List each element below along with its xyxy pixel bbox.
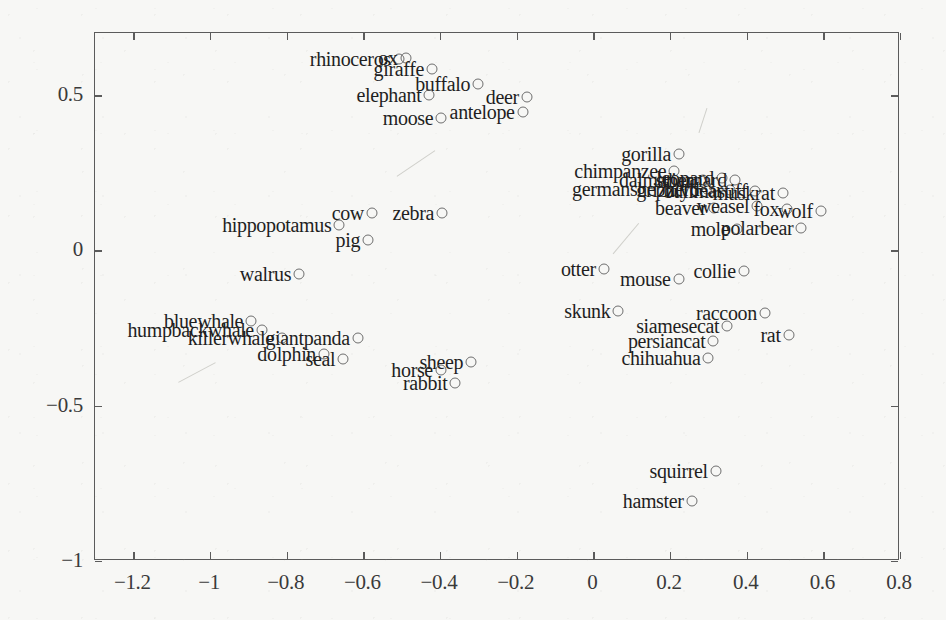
x-axis-tick <box>363 552 364 559</box>
data-point-marker <box>437 207 448 218</box>
data-point-marker <box>815 205 826 216</box>
data-point-marker <box>710 465 721 476</box>
data-point-marker <box>466 356 477 367</box>
data-point-label: walrus <box>240 264 291 284</box>
x-axis-tick <box>593 552 594 559</box>
x-axis-tick-top <box>287 33 288 40</box>
data-point-marker <box>598 263 609 274</box>
data-point-label: weasel <box>697 196 749 216</box>
y-axis-tick-label: 0 <box>73 237 83 262</box>
scatter-plot-figure: −1.2−1−0.8−0.6−0.4−0.200.20.40.60.80.50−… <box>0 0 946 620</box>
x-axis-tick-top <box>517 33 518 40</box>
x-axis-tick-top <box>133 33 134 40</box>
data-point-marker <box>759 308 770 319</box>
data-point-label: moose <box>383 108 433 128</box>
data-point-marker <box>424 90 435 101</box>
x-axis-tick-top <box>210 33 211 40</box>
data-point-label: otter <box>561 259 596 279</box>
y-axis-tick-label: −0.5 <box>46 392 83 417</box>
y-axis-tick <box>95 250 102 251</box>
x-axis-tick <box>900 552 901 559</box>
data-point-label: chihuahua <box>621 348 700 368</box>
data-point-marker <box>338 353 349 364</box>
data-point-marker <box>363 235 374 246</box>
y-axis-tick-right <box>891 406 898 407</box>
x-axis-tick <box>440 552 441 559</box>
data-point-marker <box>294 268 305 279</box>
x-axis-tick-top <box>363 33 364 40</box>
x-axis-tick-label: −0.8 <box>267 570 304 595</box>
x-axis-tick-label: −0.2 <box>497 570 534 595</box>
data-point-label: elephant <box>356 85 421 105</box>
x-axis-tick <box>210 552 211 559</box>
data-point-label: squirrel <box>649 461 707 481</box>
data-point-label: buffalo <box>415 74 470 94</box>
x-axis-tick-top <box>823 33 824 40</box>
data-point-marker <box>613 306 624 317</box>
x-axis-tick-top <box>747 33 748 40</box>
data-point-marker <box>796 223 807 234</box>
x-axis-tick <box>670 552 671 559</box>
data-point-label: seal <box>305 349 335 369</box>
data-point-marker <box>436 112 447 123</box>
x-axis-tick-label: 0.4 <box>733 570 758 595</box>
data-point-label: zebra <box>393 203 435 223</box>
x-axis-tick-label: 0.2 <box>656 570 681 595</box>
data-point-marker <box>783 330 794 341</box>
data-point-marker <box>708 336 719 347</box>
data-point-label: pig <box>336 230 361 250</box>
data-point-marker <box>450 377 461 388</box>
x-axis-tick-label: −0.4 <box>421 570 458 595</box>
data-point-label: collie <box>693 261 735 281</box>
x-axis-tick-top <box>670 33 671 40</box>
x-axis-tick-label: −1.2 <box>114 570 151 595</box>
data-point-label: hamster <box>623 491 684 511</box>
x-axis-tick <box>133 552 134 559</box>
data-point-marker <box>722 321 733 332</box>
data-point-marker <box>352 332 363 343</box>
data-point-marker <box>777 187 788 198</box>
y-axis-tick <box>95 95 102 96</box>
data-point-label: antelope <box>450 102 515 122</box>
data-point-marker <box>517 106 528 117</box>
x-axis-tick-label: 0.6 <box>810 570 835 595</box>
data-point-marker <box>521 91 532 102</box>
y-axis-tick-right <box>891 561 898 562</box>
data-point-marker <box>473 78 484 89</box>
data-point-label: rat <box>761 325 781 345</box>
x-axis-tick-top <box>440 33 441 40</box>
data-point-label: skunk <box>564 301 610 321</box>
y-axis-tick-right <box>891 95 898 96</box>
x-axis-tick <box>747 552 748 559</box>
data-point-marker <box>673 149 684 160</box>
x-axis-tick <box>287 552 288 559</box>
y-axis-tick <box>95 561 102 562</box>
x-axis-tick-label: 0 <box>587 570 597 595</box>
x-axis-tick-label: 0.8 <box>886 570 911 595</box>
x-axis-tick-label: −0.6 <box>344 570 381 595</box>
x-axis-tick-label: −1 <box>198 570 220 595</box>
data-point-label: polarbear <box>721 218 793 238</box>
data-point-label: mouse <box>620 269 670 289</box>
x-axis-tick-top <box>593 33 594 40</box>
data-point-label: hippopotamus <box>222 215 331 235</box>
data-point-marker <box>366 208 377 219</box>
y-axis-tick-right <box>891 250 898 251</box>
x-axis-tick <box>517 552 518 559</box>
data-point-label: rabbit <box>403 373 448 393</box>
data-point-marker <box>673 273 684 284</box>
data-point-label: fox <box>753 199 779 219</box>
data-point-marker <box>686 495 697 506</box>
y-axis-tick <box>95 406 102 407</box>
data-point-marker <box>738 266 749 277</box>
x-axis-tick <box>823 552 824 559</box>
data-point-marker <box>703 353 714 364</box>
x-axis-tick-top <box>900 33 901 40</box>
y-axis-tick-label: 0.5 <box>58 82 83 107</box>
y-axis-tick-label: −1 <box>61 548 83 573</box>
